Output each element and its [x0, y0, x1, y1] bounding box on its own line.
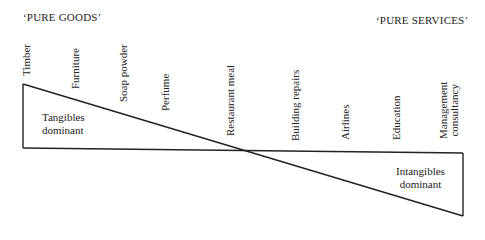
item-management-line2: consultancy — [449, 82, 460, 139]
item-airlines: Airlines — [340, 105, 351, 140]
tangibles-line2: dominant — [42, 124, 85, 137]
intangibles-line1: Intangibles — [396, 165, 445, 178]
tangibles-dominant-label: Tangibles dominant — [42, 111, 85, 137]
intangibles-dominant-label: Intangibles dominant — [396, 165, 445, 191]
item-management-consultancy: Management consultancy — [438, 82, 460, 139]
item-restaurant-meal: Restaurant meal — [225, 65, 236, 136]
item-furniture: Furniture — [70, 48, 81, 89]
tangibles-line1: Tangibles — [42, 111, 85, 124]
item-perfume: Perfume — [160, 74, 171, 111]
item-education: Education — [391, 95, 402, 140]
item-building-repairs: Building repairs — [290, 70, 301, 141]
intangibles-line2: dominant — [396, 178, 445, 191]
baseline — [23, 148, 463, 153]
item-timber: Timber — [21, 44, 32, 76]
item-soap-powder: Soap powder — [118, 44, 129, 102]
